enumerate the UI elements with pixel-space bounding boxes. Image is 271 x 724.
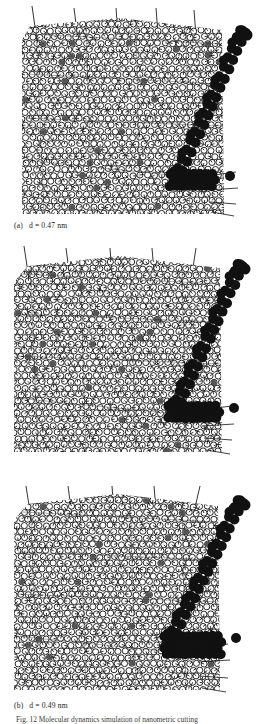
panel-c: (c)d = 0.61 nm [0, 480, 271, 724]
caption-label-a: (a) [14, 221, 23, 230]
panel-a-canvas [0, 0, 271, 240]
panel-b-canvas [0, 240, 271, 480]
panel-a: (a)d = 0.47 nm [0, 0, 271, 240]
panel-c-canvas [0, 480, 271, 712]
panel-b: (b)d = 0.49 nm [0, 240, 271, 480]
figure-caption: Fig. 12 Molecular dynamics simulation of… [16, 715, 268, 724]
caption-panel-a: (a)d = 0.47 nm [14, 221, 67, 230]
figure-molecular-dynamics: (a)d = 0.47 nm [0, 0, 271, 724]
caption-text-a: d = 0.47 nm [29, 221, 67, 230]
